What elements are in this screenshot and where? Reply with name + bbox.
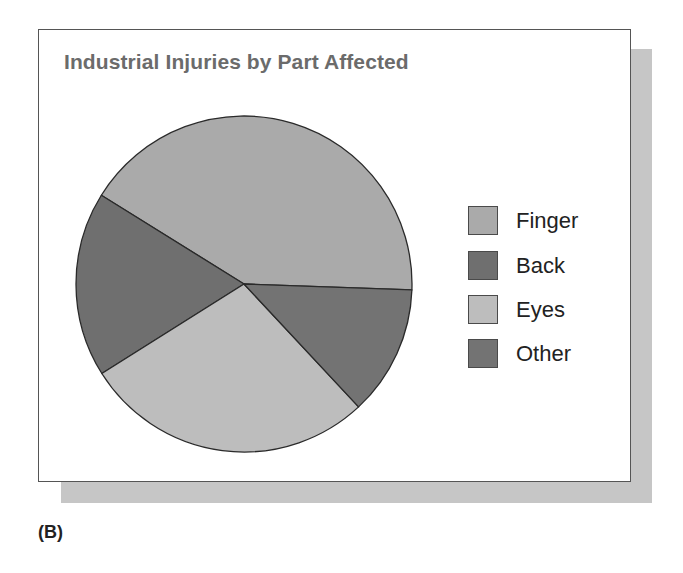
legend-item-finger: Finger: [468, 206, 628, 237]
legend-item-back: Back: [468, 251, 628, 282]
chart-frame: Industrial Injuries by Part Affected Fin…: [38, 29, 631, 482]
legend-swatch: [468, 295, 498, 324]
legend-label: Finger: [516, 206, 578, 235]
legend-label: Eyes: [516, 295, 565, 324]
legend-swatch: [468, 251, 498, 280]
legend-swatch: [468, 339, 498, 368]
legend-item-eyes: Eyes: [468, 295, 628, 326]
legend-label: Back: [516, 251, 565, 280]
legend-item-other: Other: [468, 339, 628, 370]
panel-label: (B): [38, 522, 63, 543]
legend-swatch: [468, 206, 498, 235]
legend-label: Other: [516, 339, 571, 368]
